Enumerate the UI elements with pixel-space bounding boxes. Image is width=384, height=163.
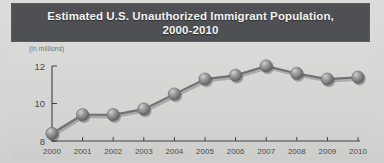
x-tick-label: 2000 <box>43 147 61 156</box>
data-point[interactable] <box>138 103 150 115</box>
data-point[interactable] <box>168 88 180 100</box>
x-tick-label: 2001 <box>74 147 92 156</box>
x-tick-label: 2006 <box>227 147 245 156</box>
data-point[interactable] <box>107 109 119 121</box>
x-tick-label: 2008 <box>288 147 306 156</box>
page-title: Estimated U.S. Unauthorized Immigrant Po… <box>41 9 340 37</box>
data-point[interactable] <box>260 60 272 72</box>
data-point[interactable] <box>291 67 303 79</box>
data-point[interactable] <box>199 73 211 85</box>
chart-title-band: Estimated U.S. Unauthorized Immigrant Po… <box>11 3 370 42</box>
chart-figure: Estimated U.S. Unauthorized Immigrant Po… <box>0 0 384 163</box>
data-point[interactable] <box>352 71 364 83</box>
x-tick-label: 2003 <box>135 147 153 156</box>
data-point[interactable] <box>46 127 58 139</box>
data-point[interactable] <box>229 69 241 81</box>
x-tick-label: 2007 <box>257 147 275 156</box>
y-tick-label: 8 <box>40 136 45 147</box>
title-line-1: Estimated U.S. Unauthorized Immigrant Po… <box>47 10 334 22</box>
data-point[interactable] <box>76 109 88 121</box>
data-point[interactable] <box>321 73 333 85</box>
y-tick-label: 12 <box>34 61 45 72</box>
plot-area: (in millions) 81012200020012002200320042… <box>11 43 370 160</box>
x-tick-label: 2009 <box>319 147 337 156</box>
chart-canvas: 8101220002001200220032004200520062007200… <box>11 43 370 160</box>
x-tick-label: 2004 <box>166 147 184 156</box>
x-tick-label: 2010 <box>349 147 367 156</box>
title-line-2: 2000-2010 <box>47 23 334 37</box>
x-tick-label: 2005 <box>196 147 214 156</box>
x-tick-label: 2002 <box>104 147 122 156</box>
y-tick-label: 10 <box>34 98 45 109</box>
